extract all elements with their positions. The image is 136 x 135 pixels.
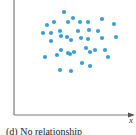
data-points xyxy=(41,10,118,73)
data-point xyxy=(88,50,92,54)
data-point xyxy=(69,38,73,42)
data-point xyxy=(79,36,83,40)
data-point xyxy=(65,35,69,39)
data-point xyxy=(93,48,97,52)
data-point xyxy=(68,52,72,56)
data-point xyxy=(76,29,80,33)
data-point xyxy=(59,48,63,52)
data-point xyxy=(100,36,104,40)
data-point xyxy=(84,46,88,50)
data-point xyxy=(112,22,116,26)
data-point xyxy=(59,34,63,38)
data-point xyxy=(87,28,91,32)
figure-caption: (d) No relationship xyxy=(6,126,82,135)
data-point xyxy=(106,55,110,59)
x-axis-label: x xyxy=(129,115,133,125)
data-point xyxy=(88,64,92,68)
data-point xyxy=(80,61,84,65)
data-point xyxy=(100,17,104,21)
data-point xyxy=(41,31,45,35)
data-point xyxy=(45,23,49,27)
data-point xyxy=(86,20,90,24)
data-point xyxy=(58,29,62,33)
scatter-plot-figure: x (d) No relationship xyxy=(0,0,136,135)
data-point xyxy=(58,68,62,72)
data-point xyxy=(66,20,70,24)
data-point xyxy=(49,31,53,35)
data-point xyxy=(55,53,59,57)
data-point xyxy=(96,29,100,33)
data-point xyxy=(62,10,66,14)
data-point xyxy=(78,20,82,24)
data-point xyxy=(52,20,56,24)
data-point xyxy=(72,50,76,54)
data-point xyxy=(114,35,118,39)
data-point xyxy=(103,48,107,52)
data-point xyxy=(69,69,73,73)
data-point xyxy=(49,39,53,43)
data-point xyxy=(86,37,90,41)
data-point xyxy=(43,55,47,59)
scatter-plot xyxy=(0,0,136,135)
data-point xyxy=(71,16,75,20)
